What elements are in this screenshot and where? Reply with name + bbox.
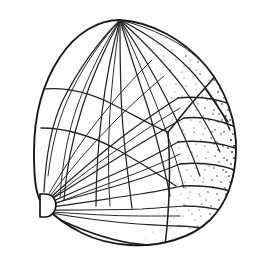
botanical-line-drawing — [0, 0, 262, 263]
figure-root — [0, 0, 262, 263]
hilum-scar — [40, 194, 56, 217]
